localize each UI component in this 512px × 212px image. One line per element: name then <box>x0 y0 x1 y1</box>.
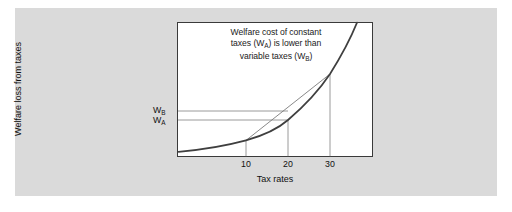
x-tick-label-20: 20 <box>275 159 301 169</box>
y-label-wb: WB <box>153 105 177 116</box>
x-tick-label-30: 30 <box>317 159 343 169</box>
figure-container: Welfare cost of constant taxes (WA) is l… <box>0 0 512 212</box>
x-tick-label-10: 10 <box>233 159 259 169</box>
y-axis-label: Welfare loss from taxes <box>13 9 23 169</box>
y-label-wa: WA <box>153 115 177 126</box>
wa-subscript: A <box>161 119 165 126</box>
x-axis-label: Tax rates <box>177 174 373 184</box>
